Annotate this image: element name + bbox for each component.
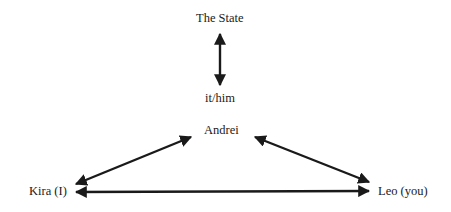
node-kira: Kira (I) [29, 185, 67, 198]
arrow-kira-leo [76, 191, 369, 192]
node-andrei: Andrei [204, 124, 239, 137]
diagram-canvas [0, 0, 451, 212]
arrow-andrei-leo [255, 137, 369, 182]
node-the-state: The State [196, 12, 244, 25]
node-it-him: it/him [205, 92, 235, 105]
node-leo: Leo (you) [378, 185, 428, 198]
arrow-andrei-kira [76, 137, 191, 184]
